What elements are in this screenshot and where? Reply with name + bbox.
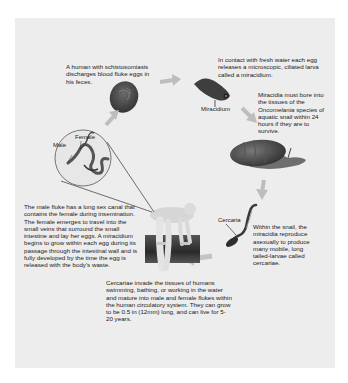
step-miracidium-release: In contact with fresh water each egg rel… bbox=[218, 56, 330, 78]
callout-line bbox=[107, 142, 154, 212]
step-fluke-mating: The male fluke has a long sex canal that… bbox=[24, 203, 140, 269]
label-male: Male bbox=[53, 142, 66, 149]
arrow-icon bbox=[106, 110, 119, 125]
step-cercariae-invade: Cercariae invade the tissues of humans s… bbox=[106, 279, 232, 323]
label-cercaria: Cercaria bbox=[218, 217, 241, 224]
human-wading-icon bbox=[145, 203, 200, 268]
cercaria-icon bbox=[224, 205, 256, 249]
step-snail-reproduction: Within the snail, the miracidia reproduc… bbox=[253, 223, 317, 267]
step-snail-entry: Miracidia must bore into the tissues of … bbox=[258, 91, 328, 135]
label-female: Female bbox=[75, 134, 95, 141]
arrow-icon bbox=[256, 180, 268, 200]
arrow-icon bbox=[160, 74, 181, 86]
step-human-eggs: A human with schistosomiasis discharges … bbox=[66, 63, 158, 85]
label-miracidium: Miracidium bbox=[201, 106, 230, 113]
miracidium-icon bbox=[194, 78, 230, 107]
snail-icon bbox=[229, 138, 306, 169]
arrow-icon bbox=[242, 108, 257, 123]
